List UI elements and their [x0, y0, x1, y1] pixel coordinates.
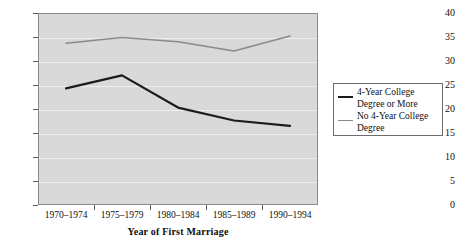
legend-entry-no-college: No 4-Year College Degree: [338, 111, 438, 134]
x-tick-label: 1975–1979: [94, 210, 150, 221]
gridline: [39, 62, 317, 63]
x-tick-label: 1990–1994: [262, 210, 318, 221]
gridline: [39, 38, 317, 39]
gridline: [39, 134, 317, 135]
y-tick-mark: [33, 109, 38, 110]
y-tick-mark: [33, 37, 38, 38]
legend-entry-college-degree: 4-Year College Degree or More: [338, 87, 438, 110]
line-chart-figure: 40 35 30 25 20 15 10 5 0 1970–1974 1975–…: [0, 0, 455, 251]
y-tick-mark: [33, 205, 38, 206]
y-tick-mark: [33, 133, 38, 134]
y-tick-mark: [33, 157, 38, 158]
y-tick-label: 30: [423, 56, 455, 66]
x-tick-label: 1970–1974: [38, 210, 94, 221]
y-tick-label: 0: [423, 200, 455, 210]
y-tick-mark: [33, 13, 38, 14]
legend-line-swatch-icon: [338, 91, 353, 101]
y-tick-mark: [33, 85, 38, 86]
y-tick-mark: [33, 181, 38, 182]
x-tick-label: 1980–1984: [150, 210, 206, 221]
y-tick-label: 40: [423, 8, 455, 18]
legend-line-swatch-icon: [338, 115, 353, 125]
legend: 4-Year College Degree or More No 4-Year …: [333, 83, 443, 136]
y-tick-label: 10: [423, 152, 455, 162]
plot-area: [38, 13, 318, 205]
y-tick-label: 5: [423, 176, 455, 186]
x-tick-label: 1985–1989: [206, 210, 262, 221]
x-axis-title: Year of First Marriage: [38, 226, 318, 237]
legend-label: No 4-Year College Degree: [357, 111, 438, 134]
gridline: [39, 86, 317, 87]
legend-label: 4-Year College Degree or More: [357, 87, 438, 110]
y-tick-label: 35: [423, 32, 455, 42]
gridline: [39, 158, 317, 159]
y-tick-mark: [33, 61, 38, 62]
gridline: [39, 110, 317, 111]
gridline: [39, 182, 317, 183]
